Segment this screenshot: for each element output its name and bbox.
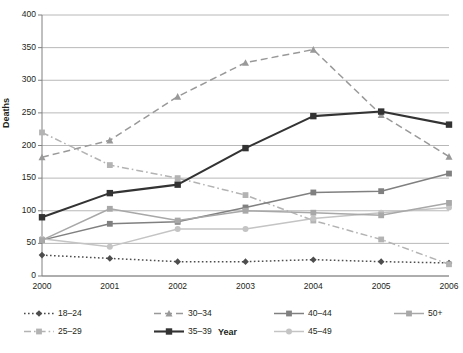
data-point-marker-circle <box>175 226 181 232</box>
data-point-marker-circle <box>107 244 113 250</box>
legend-label: 25–29 <box>58 326 82 337</box>
legend-label: 35–39 <box>188 326 212 337</box>
data-point-marker-diamond <box>378 258 385 265</box>
data-point-marker-square <box>243 192 249 198</box>
series-line <box>42 132 449 264</box>
data-point-marker-square <box>446 200 452 206</box>
data-point-marker-triangle <box>446 153 453 160</box>
legend-label: 45–49 <box>308 326 332 337</box>
series-35-39 <box>39 108 452 220</box>
y-tick-label: 250 <box>4 107 36 117</box>
data-point-marker-diamond <box>310 256 317 263</box>
data-point-marker-triangle <box>310 46 317 53</box>
legend-label: 50+ <box>428 308 442 319</box>
data-point-marker-square <box>378 237 384 243</box>
x-tick-label: 2002 <box>156 281 200 291</box>
legend-label: 30–34 <box>188 308 212 319</box>
legend-item-18-24[interactable]: 18–24 <box>24 308 82 319</box>
legend-item-40-44[interactable]: 40–44 <box>274 308 332 319</box>
y-tick-label: 0 <box>4 270 36 280</box>
x-tick-label: 2006 <box>427 281 463 291</box>
data-point-marker-diamond <box>39 252 46 259</box>
legend-swatch-icon <box>24 308 54 319</box>
x-tick-label: 2003 <box>224 281 268 291</box>
legend-swatch-icon <box>154 326 184 337</box>
y-tick-label: 400 <box>4 9 36 19</box>
data-point-marker-triangle <box>174 93 181 100</box>
data-point-marker-square <box>286 311 292 317</box>
data-point-marker-circle <box>243 226 249 232</box>
legend-label: 40–44 <box>308 308 332 319</box>
data-point-marker-square <box>166 328 172 334</box>
y-tick-label: 350 <box>4 42 36 52</box>
data-point-marker-circle <box>310 216 316 222</box>
y-tick-label: 300 <box>4 74 36 84</box>
data-point-marker-square <box>107 206 113 212</box>
series-line <box>42 112 449 218</box>
data-point-marker-square <box>310 113 316 119</box>
data-point-marker-square <box>243 208 249 214</box>
legend-item-30-34[interactable]: 30–34 <box>154 308 212 319</box>
data-point-marker-square <box>107 221 113 227</box>
data-point-marker-square <box>107 162 113 168</box>
data-point-marker-square <box>446 261 452 267</box>
data-point-marker-square <box>310 190 316 196</box>
data-point-marker-square <box>378 188 384 194</box>
data-point-marker-circle <box>286 329 292 335</box>
data-point-marker-square <box>39 237 45 243</box>
data-point-marker-diamond <box>174 258 181 265</box>
data-point-marker-square <box>107 190 113 196</box>
data-point-marker-square <box>175 218 181 224</box>
data-point-marker-square <box>406 311 412 317</box>
legend-item-45-49[interactable]: 45–49 <box>274 326 332 337</box>
data-point-marker-square <box>378 212 384 218</box>
y-tick-label: 150 <box>4 172 36 182</box>
series-40-44 <box>39 171 452 243</box>
legend-swatch-icon <box>394 308 424 319</box>
x-tick-label: 2000 <box>20 281 64 291</box>
legend-item-50plus[interactable]: 50+ <box>394 308 442 319</box>
data-point-marker-square <box>175 175 181 181</box>
y-tick-label: 50 <box>4 237 36 247</box>
x-tick-label: 2005 <box>359 281 403 291</box>
data-point-marker-square <box>39 130 45 136</box>
legend-swatch-icon <box>274 308 304 319</box>
series-30-34 <box>39 46 453 160</box>
data-point-marker-square <box>39 214 45 220</box>
y-tick-label: 100 <box>4 205 36 215</box>
legend-item-25-29[interactable]: 25–29 <box>24 326 82 337</box>
data-point-marker-triangle <box>242 59 249 66</box>
series-18-24 <box>39 252 453 266</box>
data-point-marker-triangle <box>106 137 113 144</box>
data-point-marker-square <box>446 121 452 127</box>
legend-swatch-icon <box>24 326 54 337</box>
data-point-marker-diamond <box>242 258 249 265</box>
data-point-marker-square <box>242 145 248 151</box>
data-point-marker-diamond <box>107 255 114 262</box>
legend-swatch-icon <box>274 326 304 337</box>
legend-swatch-icon <box>154 308 184 319</box>
data-point-marker-square <box>174 181 180 187</box>
data-point-marker-square <box>310 210 316 216</box>
data-point-marker-square <box>378 108 384 114</box>
legend-item-35-39[interactable]: 35–39 <box>154 326 212 337</box>
chart-legend: 18–2425–2930–3435–3940–4445–4950+ <box>24 306 444 348</box>
x-tick-label: 2001 <box>88 281 132 291</box>
x-tick-label: 2004 <box>291 281 335 291</box>
data-point-marker-square <box>36 329 42 335</box>
legend-label: 18–24 <box>58 308 82 319</box>
data-point-marker-square <box>446 171 452 177</box>
data-point-marker-diamond <box>36 310 43 317</box>
y-tick-label: 200 <box>4 140 36 150</box>
